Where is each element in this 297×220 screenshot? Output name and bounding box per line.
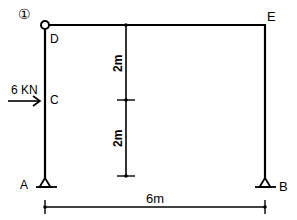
vertical-dimension — [117, 23, 135, 178]
load-arrow-icon — [8, 96, 40, 106]
load-label: 6 KN — [11, 83, 38, 97]
pin-support-icon — [36, 178, 57, 187]
dimension-label-upper: 2m — [111, 55, 125, 72]
node-label-b: B — [279, 179, 288, 194]
dimension-label-span: 6m — [146, 191, 164, 206]
node-label-c: C — [50, 93, 59, 107]
pin-support-icon — [255, 178, 276, 187]
hinge-icon — [41, 21, 49, 29]
frame-diagram: ① D E C A B 6 KN 2m 2m — [0, 0, 297, 220]
dimension-label-lower: 2m — [111, 130, 125, 147]
node-label-d: D — [50, 32, 59, 46]
figure-number: ① — [18, 6, 31, 22]
node-label-a: A — [20, 178, 28, 192]
node-label-e: E — [267, 9, 276, 24]
